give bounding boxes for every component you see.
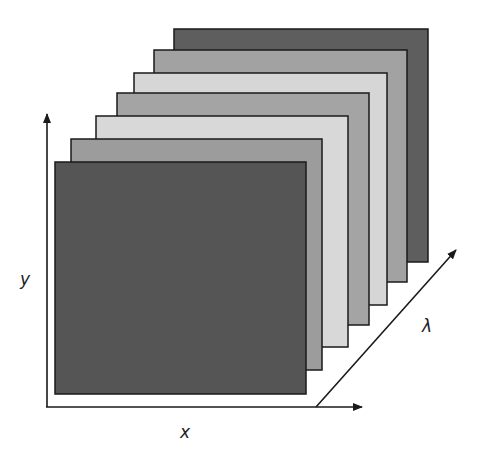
y-axis-label: y	[19, 269, 31, 289]
lambda-axis-label: λ	[421, 316, 432, 336]
hyperspectral-cube-diagram: y x λ	[0, 0, 478, 464]
x-axis-label: x	[179, 422, 191, 442]
spectral-band-stack	[55, 29, 428, 394]
panel-band-1	[55, 162, 306, 394]
